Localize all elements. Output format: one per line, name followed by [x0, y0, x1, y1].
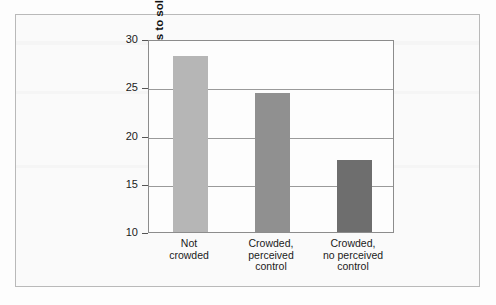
y-axis-tick-label: 20 — [108, 131, 138, 142]
x-axis-category-label: Crowded, perceived control — [226, 238, 316, 273]
figure-container: Number of attempts to solve puzzles 1015… — [0, 0, 496, 305]
x-axis-category-label: Crowded, no perceived control — [308, 238, 398, 273]
y-axis-tick-label: 30 — [108, 34, 138, 45]
x-axis-category-label: Not crowded — [144, 238, 234, 261]
y-axis-tick-label: 15 — [108, 179, 138, 190]
bar — [173, 56, 208, 232]
plot-area — [148, 40, 394, 233]
y-axis-tick-label: 10 — [108, 227, 138, 238]
y-axis-tick — [142, 233, 148, 234]
bar — [337, 160, 372, 232]
bar — [255, 93, 290, 232]
y-axis-tick-label: 25 — [108, 82, 138, 93]
